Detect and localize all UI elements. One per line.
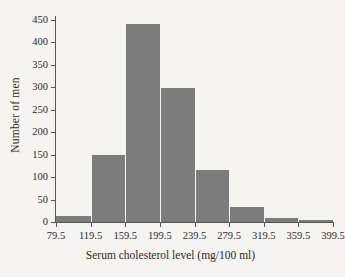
x-axis-tick-label: 399.5 — [321, 229, 345, 242]
y-axis-tick: 450 — [51, 20, 56, 21]
histogram-bar — [195, 170, 230, 222]
histogram-bar — [229, 207, 264, 222]
y-axis-label-text: Number of men — [9, 77, 21, 152]
x-axis-tick — [333, 222, 334, 227]
histogram-bar — [264, 218, 299, 222]
x-axis-tick-label: 79.5 — [47, 229, 65, 242]
x-axis-tick-label: 199.5 — [148, 229, 172, 242]
x-axis-tick — [56, 222, 57, 227]
y-axis-tick: 50 — [51, 200, 56, 201]
y-axis-tick: 250 — [51, 110, 56, 111]
y-axis-tick-label: 50 — [38, 193, 49, 206]
plot-area: 050100150200250300350400450 79.5119.5159… — [56, 20, 333, 222]
x-axis-tick — [195, 222, 196, 227]
y-axis-tick-label: 350 — [32, 58, 48, 71]
x-axis-label-text: Serum cholesterol level (mg/100 ml) — [86, 249, 255, 261]
histogram-bar — [160, 88, 195, 222]
x-axis-tick — [229, 222, 230, 227]
y-axis-tick-label: 0 — [43, 215, 48, 228]
histogram-bar — [298, 220, 333, 222]
y-axis-tick-label: 400 — [32, 35, 48, 48]
y-axis-tick-label: 300 — [32, 80, 48, 93]
histogram-bar — [56, 216, 91, 222]
y-axis-tick: 350 — [51, 65, 56, 66]
y-axis-tick: 400 — [51, 42, 56, 43]
y-axis-line — [55, 16, 56, 223]
x-axis-tick — [125, 222, 126, 227]
x-axis-tick — [298, 222, 299, 227]
x-axis-tick-label: 119.5 — [79, 229, 102, 242]
histogram-bar — [91, 155, 126, 222]
y-axis-tick-label: 100 — [32, 170, 48, 183]
y-axis-tick-label: 150 — [32, 148, 48, 161]
x-axis-tick — [160, 222, 161, 227]
x-axis-label: Serum cholesterol level (mg/100 ml) — [0, 249, 341, 261]
x-axis-tick-label: 239.5 — [183, 229, 207, 242]
y-axis-tick: 150 — [51, 155, 56, 156]
y-axis-tick-label: 450 — [32, 13, 48, 26]
y-axis-label: Number of men — [4, 0, 26, 230]
x-axis-tick-label: 279.5 — [217, 229, 241, 242]
y-axis-tick-label: 250 — [32, 103, 48, 116]
y-axis-tick: 100 — [51, 177, 56, 178]
x-axis-tick-label: 319.5 — [252, 229, 276, 242]
x-axis-tick — [91, 222, 92, 227]
y-axis-tick: 300 — [51, 87, 56, 88]
histogram-bar — [125, 24, 160, 222]
y-axis-tick: 200 — [51, 132, 56, 133]
y-axis-tick-label: 200 — [32, 125, 48, 138]
x-axis-tick — [264, 222, 265, 227]
x-axis-tick-label: 159.5 — [113, 229, 137, 242]
x-axis-tick-label: 359.5 — [287, 229, 311, 242]
